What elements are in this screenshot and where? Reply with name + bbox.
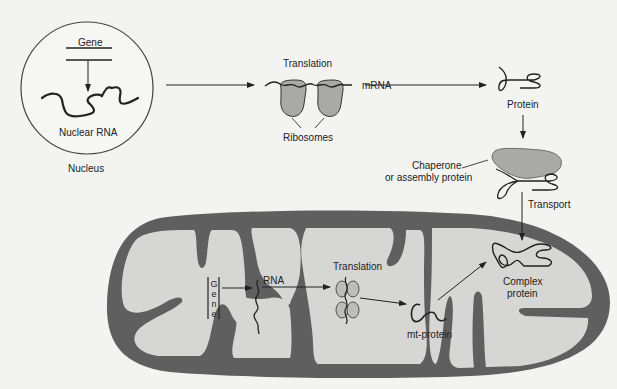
complex-protein-label: protein [507, 289, 538, 299]
assembly-protein-label: or assembly protein [385, 173, 472, 183]
complex-label: Complex [503, 277, 542, 287]
mrna-label: mRNA [362, 81, 391, 91]
mt-gene-letter: e [210, 290, 218, 299]
mt-translation-label: Translation [333, 262, 382, 272]
chaperone-label: Chaperone [412, 161, 461, 171]
protein-icon [499, 67, 540, 91]
nuclear-rna-label: Nuclear RNA [59, 128, 117, 138]
nucleus-gene-label: Gene [78, 38, 102, 48]
mt-gene-letter: e [210, 310, 218, 319]
mt-gene-letter: G [210, 280, 218, 289]
nucleus-label: Nucleus [68, 164, 104, 174]
mt-gene-letter: n [210, 300, 218, 309]
protein-label: Protein [507, 100, 539, 110]
chaperone-complex [462, 148, 561, 198]
transport-label: Transport [528, 200, 570, 210]
ribosomes [265, 80, 352, 128]
mt-rna-label: RNA [263, 276, 284, 286]
ribosomes-label: Ribosomes [283, 133, 333, 143]
mt-protein-label: mt-protein [407, 330, 452, 340]
translation-label: Translation [283, 59, 332, 69]
